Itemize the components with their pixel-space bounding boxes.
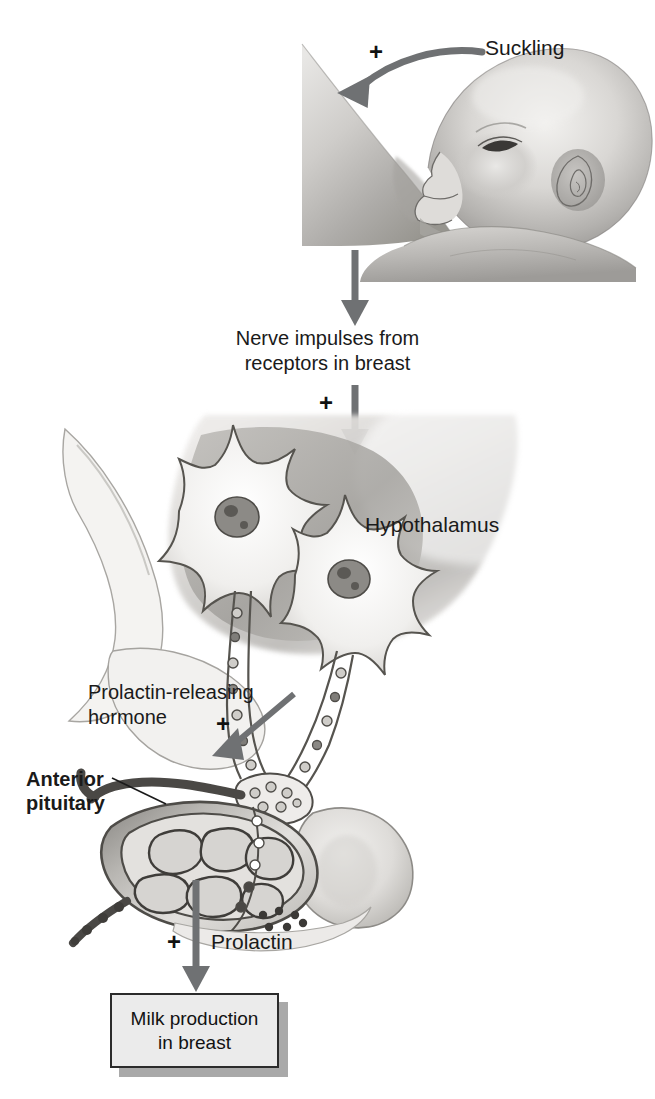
label-prolactin-releasing-hormone-line-2: hormone bbox=[88, 706, 167, 730]
hypothalamus-pituitary-illustration bbox=[55, 415, 575, 895]
label-anterior-pituitary-line-1: Anterior bbox=[26, 768, 104, 792]
label-hypothalamus: Hypothalamus bbox=[365, 513, 499, 538]
suckling-plus-sign: + bbox=[369, 40, 383, 64]
label-nerve-impulses-line-1: Nerve impulses from bbox=[0, 327, 655, 351]
milk-production-line-1: Milk production bbox=[131, 1008, 259, 1029]
anterior-pituitary-leader-line bbox=[110, 770, 180, 820]
arrow-breast-to-nerve-impulses bbox=[330, 250, 380, 330]
label-prolactin: Prolactin bbox=[211, 930, 293, 955]
label-suckling: Suckling bbox=[485, 36, 564, 61]
milk-production-line-2: in breast bbox=[158, 1032, 231, 1053]
suckling-arrow bbox=[300, 30, 500, 120]
diagram-canvas: Suckling + Nerve impulses from receptors… bbox=[0, 0, 655, 1099]
label-nerve-impulses-line-2: receptors in breast bbox=[0, 352, 655, 376]
arrow-prolactin-releasing-hormone bbox=[198, 690, 308, 780]
label-anterior-pituitary-line-2: pituitary bbox=[26, 792, 105, 816]
milk-production-box: Milk production in breast bbox=[110, 993, 279, 1068]
